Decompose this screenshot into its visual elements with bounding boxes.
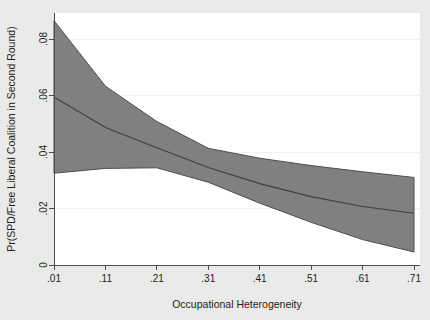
x-tick-label: .51: [304, 273, 318, 284]
y-axis-title: Pr(SPD/Free Liberal Coalition in Second …: [5, 26, 17, 251]
confidence-band-chart: .01.11.21.31.41.51.61.71 0.02.04.06.08 O…: [0, 0, 430, 320]
y-tick-label: .04: [38, 145, 49, 159]
x-axis-title: Occupational Heterogeneity: [172, 298, 302, 310]
x-tick-label: .61: [356, 273, 370, 284]
y-tick-label: .08: [38, 32, 49, 46]
y-tick-label: 0: [38, 262, 49, 268]
x-tick-label: .31: [201, 273, 215, 284]
x-tick-label: .71: [407, 273, 421, 284]
x-tick-label: .11: [99, 273, 113, 284]
chart-figure: .01.11.21.31.41.51.61.71 0.02.04.06.08 O…: [0, 0, 430, 320]
x-tick-label: .21: [150, 273, 164, 284]
y-tick-label: .06: [38, 88, 49, 102]
x-tick-label: .41: [253, 273, 267, 284]
y-tick-label: .02: [38, 201, 49, 215]
x-tick-label: .01: [47, 273, 61, 284]
